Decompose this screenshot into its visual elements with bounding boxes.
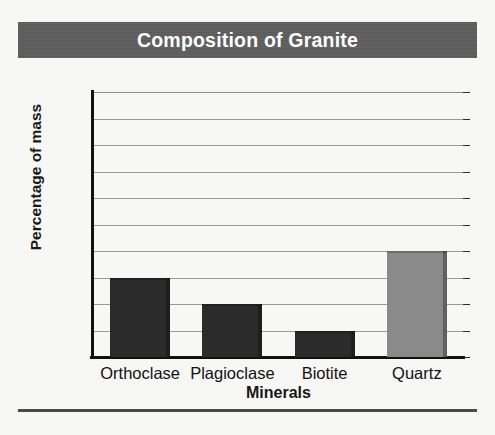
- gridline: [94, 172, 463, 173]
- y-axis-tick-mark: [463, 145, 470, 146]
- bar-shadow-edge: [351, 331, 355, 358]
- gridline: [94, 225, 463, 226]
- gridline: [94, 198, 463, 199]
- y-axis-tick-mark: [463, 251, 470, 252]
- bar-fill: [202, 304, 262, 357]
- bar-fill: [295, 331, 355, 358]
- y-axis-tick-mark: [463, 198, 470, 199]
- y-axis-tick-mark: [463, 119, 470, 120]
- bar: [202, 304, 262, 357]
- y-axis-tick-mark: [463, 304, 470, 305]
- y-axis-tick-mark: [463, 357, 470, 358]
- x-axis-tick-label: Plagioclase: [186, 364, 278, 383]
- bar-fill: [387, 251, 447, 357]
- x-axis-tick-label: Quartz: [371, 364, 463, 383]
- chart-title: Composition of Granite: [137, 29, 358, 52]
- x-axis-tick-label: Orthoclase: [94, 364, 186, 383]
- footer-rule: [18, 409, 477, 412]
- plot-area: 1009080706050403020100 OrthoclasePlagioc…: [94, 92, 463, 357]
- bar-top-edge: [110, 278, 170, 280]
- bar-shadow-edge: [166, 278, 170, 358]
- chart-title-band: Composition of Granite: [18, 22, 477, 58]
- y-axis-tick-mark: [463, 172, 470, 173]
- gridline: [94, 92, 463, 93]
- y-axis-tick-mark: [463, 278, 470, 279]
- gridline: [94, 119, 463, 120]
- x-axis-label: Minerals: [94, 384, 463, 402]
- bar-top-edge: [295, 331, 355, 333]
- bar: [295, 331, 355, 358]
- y-axis-tick-mark: [463, 331, 470, 332]
- bar: [387, 251, 447, 357]
- bar-shadow-edge: [258, 304, 262, 357]
- x-axis-tick-label: Biotite: [279, 364, 371, 383]
- chart-figure: Composition of Granite Percentage of mas…: [0, 0, 495, 435]
- bar-top-edge: [387, 251, 447, 253]
- bar-fill: [110, 278, 170, 358]
- gridline: [94, 145, 463, 146]
- y-axis-tick-mark: [463, 92, 470, 93]
- bar: [110, 278, 170, 358]
- bar-shadow-edge: [443, 251, 447, 357]
- y-axis-tick-mark: [463, 225, 470, 226]
- bar-top-edge: [202, 304, 262, 306]
- y-axis-label: Percentage of mass: [27, 77, 45, 277]
